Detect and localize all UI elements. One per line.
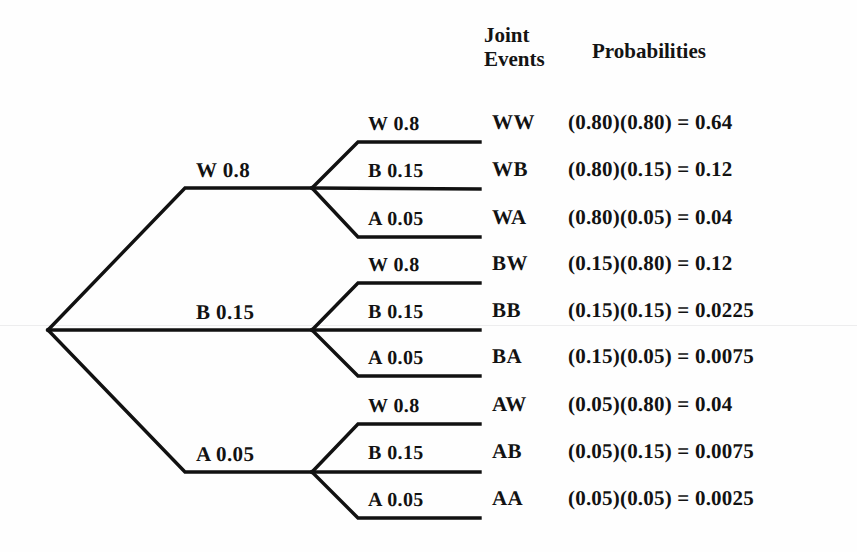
branch-label-level2-2: B 0.15 (368, 160, 424, 183)
probability-expression-aa: (0.05)(0.05) = 0.0025 (568, 486, 754, 511)
column-header-joint-events: Joint Events (484, 24, 545, 71)
probability-expression-bw: (0.15)(0.80) = 0.12 (568, 251, 733, 276)
branch-label-level1-b: B 0.15 (196, 300, 254, 325)
branch-label-level1-w: W 0.8 (196, 158, 250, 183)
branch-label-level2-6: A 0.05 (368, 347, 424, 370)
branch-label-level2-1: W 0.8 (368, 113, 420, 136)
joint-event-label-ww: WW (492, 110, 535, 135)
branch-line-level1-w (48, 188, 312, 330)
probability-expression-ww: (0.80)(0.80) = 0.64 (568, 110, 733, 135)
branch-line-level1-a (48, 330, 312, 472)
joint-event-label-bb: BB (492, 298, 521, 323)
joint-event-label-bw: BW (492, 251, 528, 276)
tree-branch-lines (0, 0, 857, 552)
joint-event-label-ba: BA (492, 344, 522, 369)
branch-label-level2-3: A 0.05 (368, 208, 424, 231)
probability-expression-wa: (0.80)(0.05) = 0.04 (568, 205, 733, 230)
column-header-joint-events-line2: Events (484, 48, 545, 72)
probability-expression-ba: (0.15)(0.05) = 0.0075 (568, 344, 754, 369)
branch-line-g1-b (312, 188, 480, 189)
probability-expression-bb: (0.15)(0.15) = 0.0225 (568, 298, 754, 323)
probability-expression-wb: (0.80)(0.15) = 0.12 (568, 157, 733, 182)
branch-label-level2-9: A 0.05 (368, 489, 424, 512)
joint-event-label-aw: AW (492, 392, 527, 417)
probability-tree-figure: Joint Events Probabilities W 0.8 B 0.15 … (0, 0, 857, 552)
branch-label-level2-7: W 0.8 (368, 395, 420, 418)
branch-label-level2-4: W 0.8 (368, 254, 420, 277)
joint-event-label-wb: WB (492, 157, 528, 182)
joint-event-label-wa: WA (492, 205, 527, 230)
column-header-probabilities: Probabilities (592, 40, 706, 64)
probability-expression-aw: (0.05)(0.80) = 0.04 (568, 392, 733, 417)
branch-label-level2-5: B 0.15 (368, 301, 424, 324)
joint-event-label-aa: AA (492, 486, 523, 511)
column-header-joint-events-line1: Joint (484, 24, 545, 48)
branch-label-level1-a: A 0.05 (196, 442, 254, 467)
joint-event-label-ab: AB (492, 439, 522, 464)
branch-label-level2-8: B 0.15 (368, 442, 424, 465)
probability-expression-ab: (0.05)(0.15) = 0.0075 (568, 439, 754, 464)
